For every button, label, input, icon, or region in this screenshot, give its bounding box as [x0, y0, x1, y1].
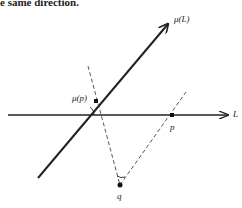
label-mu-p: μ(p): [72, 93, 87, 103]
diagram-canvas: [0, 0, 242, 208]
point-mu-p: [94, 99, 98, 103]
label-L: L: [233, 109, 238, 119]
dashed-line-q-p: [120, 92, 186, 185]
point-p: [170, 113, 174, 117]
dashed-line-mu-p-q: [88, 66, 120, 185]
point-q: [118, 183, 123, 188]
angle-arc-q: [117, 176, 125, 178]
line-mu-L: [38, 24, 168, 178]
label-mu-L: μ(L): [174, 14, 190, 24]
label-p: p: [170, 122, 175, 132]
label-q: q: [117, 191, 122, 201]
